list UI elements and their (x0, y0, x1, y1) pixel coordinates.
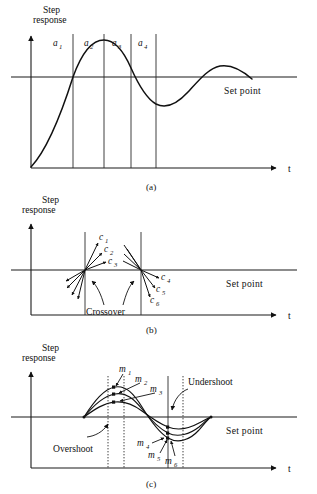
panel-c-undershoot-leader (172, 389, 188, 410)
panel-b-ray-label-c1: c 1 (99, 232, 108, 244)
panel-c-curve-label-m5-base: m (148, 450, 155, 460)
panel-c-undershoot-annotation: Undershoot (188, 376, 233, 387)
panel-b-ray-label-c1-base: c (99, 232, 104, 242)
panel-a-zone-label-4-base: a (138, 38, 143, 48)
panel-b-ray-label-c1-sub: 1 (105, 237, 108, 244)
panel-b-ray-label-c2: c 2 (104, 244, 114, 256)
panel-c-curve-label-m2-base: m (135, 374, 142, 384)
panel-c-leader-m4 (152, 438, 164, 443)
panel-c-curve-label-m1-base: m (119, 364, 126, 374)
panel-c-trough-marker-2 (166, 432, 169, 435)
panel-b-ray-label-c4-base: c (161, 272, 166, 282)
panel-c-leader-m6 (171, 441, 175, 456)
panel-c-curve-label-m5-sub: 5 (157, 455, 161, 462)
panel-a-zone-label-1: a 1 (53, 38, 62, 50)
panel-b-incoming-rays-right (123, 245, 141, 270)
panel-c-response-curve-3 (84, 402, 211, 429)
panel-a-caption: (a) (146, 182, 156, 192)
panel-c-x-axis-label: t (288, 463, 291, 474)
panel-b-caption: (b) (146, 325, 157, 335)
panel-b-ray-label-c3-sub: 3 (113, 261, 118, 268)
panel-c-start-node (83, 416, 86, 419)
panel-c-trough-marker-1 (166, 437, 169, 440)
panel-b-ray-label-c5-sub: 5 (162, 289, 166, 296)
panel-c-peak-marker-1 (112, 386, 115, 389)
panel-c-overshoot-leader (87, 424, 108, 437)
panel-b-ray-label-c4: c 4 (161, 272, 171, 284)
panel-b-x-axis-label: t (288, 310, 291, 321)
panel-a-x-axis-label: t (288, 163, 291, 174)
panel-c-curve-label-m4: m 4 (137, 438, 150, 450)
panel-c-y-axis-label-line2: response (22, 352, 56, 363)
panel-b-outgoing-rays-left (85, 243, 106, 270)
panel-c-curve-label-m1-sub: 1 (128, 369, 131, 376)
panel-c-leader-m1 (116, 374, 123, 386)
panel-c-curve-label-m6-base: m (165, 456, 172, 466)
panel-b-ray-label-c4-sub: 4 (167, 277, 171, 284)
panel-b-ray-label-c5-base: c (156, 284, 161, 294)
panel-b-ray-c2 (85, 253, 102, 270)
panel-c-caption: (c) (146, 479, 156, 489)
panel-a-zone-label-3: a 3 (112, 38, 122, 50)
panel-c-peak-marker-3 (112, 401, 115, 404)
panel-a-zone-label-2-base: a (84, 38, 89, 48)
panel-b-ray-label-c5: c 5 (156, 284, 166, 296)
panel-b-ray-c6 (141, 270, 150, 297)
panel-b-ray-label-c2-sub: 2 (110, 249, 114, 256)
panel-c-setpoint-label: Set point (226, 425, 263, 436)
panel-c-curve-label-m3: m 3 (150, 384, 163, 396)
panel-a-response-curve (31, 40, 252, 167)
panel-c-curve-label-m6: m 6 (165, 456, 178, 468)
panel-b-crossover-annotation: Crossover (86, 306, 126, 317)
panel-a-setpoint-label: Set point (224, 85, 261, 96)
step-response-figure: Step response t Set point a 1 a 2 (0, 0, 317, 494)
panel-b-ray-label-c6: c 6 (150, 295, 160, 307)
figure-root: Step response t Set point a 1 a 2 (0, 0, 317, 494)
panel-a-zone-label-1-sub: 1 (59, 43, 62, 50)
panel-c-peak-marker-2 (112, 393, 115, 396)
panel-c-trough-marker-3 (166, 426, 169, 429)
panel-c-curve-label-m6-sub: 6 (174, 461, 178, 468)
panel-c-curve-label-m2-sub: 2 (144, 379, 148, 386)
panel-c-curve-label-m1: m 1 (119, 364, 131, 376)
panel-b-ray-label-c3: c 3 (108, 256, 118, 268)
panel-a: Step response t Set point a 1 a 2 (11, 4, 297, 192)
panel-c-curve-label-m4-sub: 4 (146, 443, 150, 450)
panel-c-curve-label-m4-base: m (137, 438, 144, 448)
panel-c: Step response t Set point (11, 342, 297, 489)
panel-c-end-node (210, 416, 213, 419)
panel-a-zone-label-4-sub: 4 (144, 43, 148, 50)
panel-a-y-axis-label-line2: response (33, 14, 67, 25)
panel-c-leader-m5 (160, 440, 167, 453)
panel-b-ray-label-c6-sub: 6 (156, 300, 160, 307)
panel-c-curve-label-m3-base: m (150, 384, 157, 394)
panel-c-curve-label-m3-sub: 3 (158, 389, 163, 396)
panel-c-overshoot-annotation: Overshoot (53, 443, 93, 454)
panel-b: Step response t Set point (11, 194, 297, 335)
panel-b-crossover-leader-right (123, 281, 134, 305)
panel-b-crossover-leader-left (92, 281, 104, 305)
panel-b-y-axis-label-line2: response (22, 204, 56, 215)
panel-b-ray-label-c2-base: c (104, 244, 109, 254)
panel-b-ray-label-c6-base: c (150, 295, 155, 305)
panel-b-incoming-rays-left (66, 270, 85, 299)
panel-a-zone-label-4: a 4 (138, 38, 148, 50)
panel-c-curve-label-m5: m 5 (148, 450, 161, 462)
panel-b-setpoint-label: Set point (226, 278, 263, 289)
panel-a-zone-label-1-base: a (53, 38, 58, 48)
panel-b-ray-label-c3-base: c (108, 256, 113, 266)
